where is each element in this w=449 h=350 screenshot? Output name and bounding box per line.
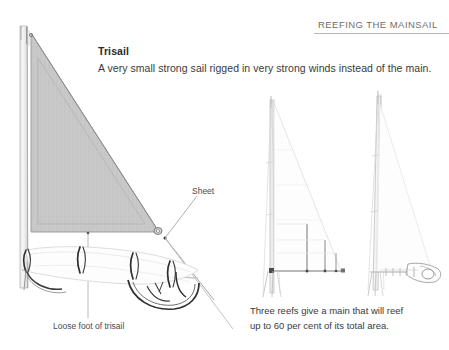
label-loose-foot-of-trisail: Loose foot of trisail — [53, 321, 124, 331]
reefing-mainsail-figure: REEFING THE MAINSAIL Trisail A very smal… — [0, 0, 449, 350]
right-diagram-group — [368, 91, 441, 296]
boom-and-furled-mainsail — [22, 247, 199, 310]
label-sheet: Sheet — [192, 186, 214, 196]
diagram-artboard — [0, 0, 449, 350]
sheet-leader-line — [165, 196, 197, 238]
page-title: Trisail — [98, 45, 129, 57]
trisail-description: A very small strong sail rigged in very … — [98, 62, 431, 74]
clew-cringle — [154, 228, 162, 235]
mast — [20, 26, 28, 288]
caption-line-1: Three reefs give a main that will reef — [250, 305, 403, 316]
caption-line-2: up to 60 per cent of its total area. — [250, 320, 389, 331]
middle-diagram-group — [263, 96, 345, 297]
header-divider — [314, 33, 449, 34]
section-header-title: REEFING THE MAINSAIL — [318, 19, 438, 30]
